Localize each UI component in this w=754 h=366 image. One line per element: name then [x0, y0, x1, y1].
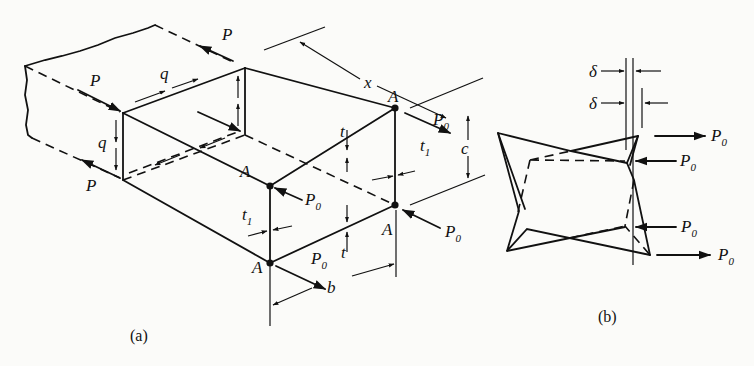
- q-arrow-top-1: [135, 91, 165, 102]
- label-p0-bottom-right: P0: [444, 222, 461, 244]
- label-p-top: P: [221, 25, 232, 44]
- figure-canvas: P P P q q x c t t b t1 t1 A A A A P0 P0 …: [0, 0, 754, 366]
- point-a-top-left: [266, 182, 273, 189]
- label-t-bottom: t: [341, 243, 347, 262]
- section-bottom-dashed: [123, 135, 245, 180]
- label-t1-right: t1: [420, 136, 430, 158]
- t1-right-arrow-out: [398, 171, 415, 175]
- p0-arrow-bottom-left: [276, 266, 325, 289]
- label-b: b: [327, 278, 336, 297]
- section-inner-dashed: [129, 131, 240, 173]
- dashed-top-front-edge: [25, 66, 120, 112]
- t1-right-arrow-in: [372, 176, 393, 180]
- label-p0-b-2: P0: [679, 151, 696, 173]
- label-q-top: q: [160, 64, 169, 83]
- label-p-left: P: [89, 71, 100, 90]
- point-a-bottom-right: [391, 201, 398, 208]
- x-ext-left: [264, 27, 325, 50]
- caption-b: (b): [598, 308, 617, 326]
- label-p0-b-3: P0: [680, 217, 697, 239]
- label-delta-bottom: δ: [589, 94, 598, 113]
- b-dimension-left: [273, 288, 312, 305]
- arrow-p-top-left: [78, 90, 120, 111]
- label-p0-top-right: P0: [432, 110, 449, 132]
- end-bottom-edge: [270, 205, 395, 263]
- label-t1-left: t1: [242, 205, 252, 227]
- end-top-edge: [270, 108, 395, 186]
- label-p0-b-1: P0: [710, 126, 727, 148]
- x-ext-right: [410, 78, 483, 108]
- b-dimension-right: [352, 264, 394, 276]
- p0-arrow-bottom-right: [403, 210, 440, 228]
- warped-dashed-right: [625, 180, 650, 255]
- section-top-edge: [123, 68, 245, 113]
- caption-a: (a): [130, 327, 148, 345]
- panel-a-box-beam: [25, 25, 399, 267]
- label-a-bottom-left: A: [251, 258, 263, 277]
- label-p0-b-4: P0: [717, 245, 734, 267]
- t1-left-arrow-out: [273, 226, 292, 230]
- top-back-long-edge: [245, 68, 395, 108]
- arrow-p-inner: [198, 112, 240, 131]
- broken-end-top: [25, 25, 155, 66]
- bottom-back-long-edge-dashed: [245, 135, 395, 205]
- label-p-bottom: P: [85, 176, 96, 195]
- label-delta-top: δ: [589, 62, 598, 81]
- label-a-top-left: A: [239, 162, 251, 181]
- label-c: c: [461, 139, 469, 158]
- broken-end-side: [25, 66, 32, 138]
- arrow-p-top-back: [200, 46, 233, 61]
- p0-arrow-top-left: [275, 188, 302, 200]
- panel-b-warped-section: δ δ P0 P0 P0 P0 (b): [498, 58, 734, 326]
- warped-top-left-triangle: [498, 133, 638, 209]
- label-p0-top-left: P0: [304, 190, 321, 212]
- shear-flow-q: [116, 76, 238, 170]
- label-x: x: [363, 73, 372, 92]
- t1-left-arrow-in: [248, 231, 267, 236]
- label-a-top-right: A: [387, 87, 399, 106]
- label-p0-bottom-left: P0: [310, 249, 327, 271]
- labels-a: P P P q q x c t t b t1 t1 A A A A P0 P0 …: [85, 25, 469, 345]
- label-q-side: q: [98, 133, 107, 152]
- point-a-bottom-left: [266, 259, 273, 266]
- x-dim-1: [300, 42, 360, 79]
- label-a-bottom-right: A: [381, 220, 393, 239]
- c-ext-bottom: [410, 175, 485, 205]
